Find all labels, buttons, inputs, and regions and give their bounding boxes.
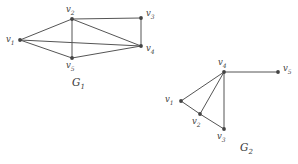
graph-edge <box>181 101 200 114</box>
graph-edge <box>72 19 141 46</box>
graph-vertex-v2 <box>198 112 202 116</box>
graph-caption-g1: G1 <box>72 77 85 91</box>
graph-edge <box>20 40 141 46</box>
vertex-label-g1-v3: v3 <box>146 9 155 20</box>
vertex-label-g2-v2: v2 <box>192 117 201 128</box>
graph-vertex-v5 <box>276 70 280 74</box>
graph-g1-edges <box>20 18 141 58</box>
graph-figure: v1v2v3v4v5G1v1v2v3v4v5G2 <box>0 0 298 164</box>
graph-vertex-v1 <box>179 99 183 103</box>
graph-vertex-v3 <box>139 16 143 20</box>
graph-edge <box>72 46 141 58</box>
graph-caption-g2: G2 <box>240 142 253 156</box>
graph-edge <box>200 114 224 129</box>
graph-canvas <box>0 0 298 164</box>
graph-vertex-v3 <box>222 127 226 131</box>
graph-edge <box>20 40 72 58</box>
vertex-label-g1-v1: v1 <box>6 35 15 46</box>
vertex-label-g1-v4: v4 <box>146 44 155 55</box>
vertex-label-g2-v1: v1 <box>165 95 174 106</box>
vertex-label-g1-v5: v5 <box>66 61 75 72</box>
vertex-label-g2-v3: v3 <box>217 132 226 143</box>
graph-edge <box>20 19 72 40</box>
graph-vertex-v1 <box>18 38 22 42</box>
graph-vertex-v4 <box>139 44 143 48</box>
graph-edge <box>181 72 224 101</box>
graph-edge <box>200 72 224 114</box>
graph-vertex-v4 <box>222 70 226 74</box>
vertex-label-g2-v5: v5 <box>283 64 292 75</box>
graph-edge <box>72 18 141 19</box>
vertex-label-g1-v2: v2 <box>66 5 75 16</box>
vertex-label-g2-v4: v4 <box>218 58 227 69</box>
graph-vertex-v2 <box>70 17 74 21</box>
